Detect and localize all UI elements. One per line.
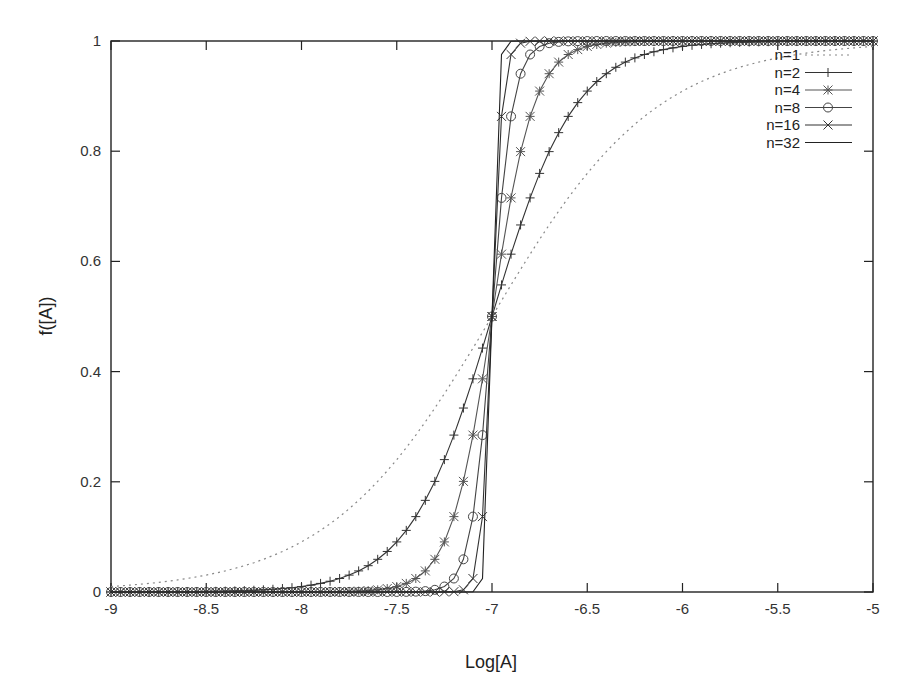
y-axis-label: f([A]) [36,297,56,336]
x-axis-label: Log[A] [465,652,517,672]
hill-curves-chart: -9-8.5-8-7.5-7-6.5-6-5.5-5 00.20.40.60.8… [0,0,922,678]
x-tick-label: -5 [866,600,879,617]
y-tick-label: 0 [93,583,101,600]
legend-label: n=2 [775,64,800,81]
legend-label: n=32 [766,134,800,151]
legend-item-n-8: n=8 [775,99,852,116]
legend-item-n-16: n=16 [766,116,852,133]
x-tick-label: -9 [104,600,117,617]
x-tick-label: -5.5 [765,600,791,617]
legend-label: n=4 [775,81,800,98]
series-n-32 [111,41,873,592]
y-tick-label: 0.8 [80,142,101,159]
legend-item-n-32: n=32 [766,134,852,151]
legend: n=1n=2n=4n=8n=16n=32 [766,46,852,151]
legend-item-n-1: n=1 [775,46,852,63]
x-tick-label: -8 [295,600,308,617]
y-tick-label: 1 [93,32,101,49]
legend-item-n-4: n=4 [775,81,852,98]
y-tick-label: 0.6 [80,252,101,269]
x-tick-label: -7.5 [384,600,410,617]
legend-label: n=8 [775,99,800,116]
x-tick-label: -8.5 [193,600,219,617]
x-tick-label: -7 [485,600,498,617]
y-tick-label: 0.4 [80,363,101,380]
legend-label: n=16 [766,116,800,133]
legend-label: n=1 [775,46,800,63]
x-tick-label: -6 [676,600,689,617]
y-tick-label: 0.2 [80,473,101,490]
data-series [107,37,878,597]
legend-item-n-2: n=2 [775,64,852,81]
x-tick-label: -6.5 [574,600,600,617]
